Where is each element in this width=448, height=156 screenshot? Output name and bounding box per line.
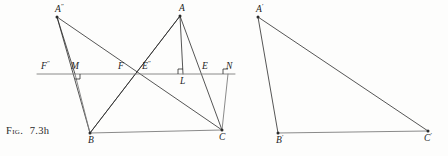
point-label-C: C	[219, 133, 226, 143]
point-label-N: N	[226, 62, 233, 72]
left-triangle-segments	[57, 16, 228, 133]
segment-A-C	[180, 16, 222, 130]
figure-container: A″ABCF″MFE″LEN A′B′C′ Fig. 7.3h	[0, 0, 448, 156]
right-angle-at-L	[178, 69, 183, 74]
segment-Ap-Cp	[258, 17, 428, 131]
point-label-F: F	[118, 62, 124, 72]
segment-Bp-Cp	[278, 131, 428, 133]
segment-Adp-B	[57, 17, 90, 133]
point-label-E: E	[202, 62, 208, 72]
point-label-E-double-prime: E″	[142, 62, 151, 72]
figure-caption: Fig. 7.3h	[6, 126, 49, 137]
left-vertex-dots	[56, 15, 224, 135]
segment-B-A-extended	[90, 16, 180, 133]
vertex-dot-A-double-prime	[56, 16, 59, 19]
segment-Adp-C	[57, 17, 222, 130]
segment-B-C	[90, 130, 222, 133]
segment-A-L-altitude	[180, 16, 183, 74]
vertex-dot-A-prime	[257, 16, 260, 19]
point-label-B-prime: B′	[276, 136, 284, 146]
vertex-dot-A	[179, 15, 182, 18]
caption-prefix: Fig.	[6, 125, 23, 136]
point-label-A-double-prime: A″	[55, 5, 64, 15]
right-triangle-segments	[258, 17, 428, 133]
caption-number: 7.3h	[30, 125, 50, 136]
segment-M-B-vertical	[75, 74, 90, 133]
point-label-L: L	[180, 77, 185, 87]
segment-Ap-Bp	[258, 17, 278, 133]
point-label-M: M	[71, 62, 79, 72]
point-label-F-double-prime: F″	[41, 62, 50, 72]
point-label-C-prime: C′	[424, 134, 432, 144]
point-label-A: A	[179, 4, 185, 14]
segment-N-C-vertical	[222, 74, 228, 130]
point-label-A-prime: A′	[256, 5, 264, 15]
point-label-B: B	[88, 136, 94, 146]
